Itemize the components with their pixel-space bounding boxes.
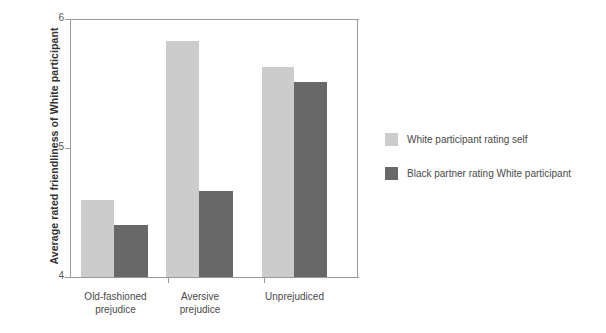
chart-legend: White participant rating self Black part… [385, 133, 571, 201]
plot-top-rule [70, 19, 359, 20]
x-label-old-fashioned: Old-fashioned prejudice [67, 291, 164, 316]
x-label-unprejudiced: Unprejudiced [246, 291, 343, 304]
legend-label-partner: Black partner rating White participant [407, 168, 571, 179]
bar-aversive-partner [199, 191, 233, 277]
bar-chart-figure: Average rated friendliness of White part… [0, 0, 606, 333]
legend-label-self: White participant rating self [407, 134, 528, 145]
bar-old-fashioned-self [81, 200, 114, 277]
plot-right-rule [357, 19, 358, 278]
plot-area: 6 5 4 Old-fashioned prejudice Aversive p… [70, 19, 358, 277]
legend-swatch-icon-partner [385, 167, 398, 180]
y-tick-label-6: 6 [58, 12, 64, 23]
legend-swatch-icon-self [385, 133, 398, 146]
y-tick-label-4: 4 [58, 270, 64, 281]
bar-unprejudiced-self [262, 67, 294, 277]
legend-item-self: White participant rating self [385, 133, 571, 146]
x-axis-line [70, 277, 359, 278]
bar-aversive-self [166, 41, 199, 277]
x-tick-group-2 [264, 277, 265, 283]
y-tick-label-5: 5 [58, 141, 64, 152]
bar-unprejudiced-partner [294, 82, 327, 277]
bar-old-fashioned-partner [114, 225, 148, 277]
x-tick-group-1 [168, 277, 169, 283]
x-label-aversive: Aversive prejudice [152, 291, 248, 316]
legend-item-partner: Black partner rating White participant [385, 167, 571, 180]
